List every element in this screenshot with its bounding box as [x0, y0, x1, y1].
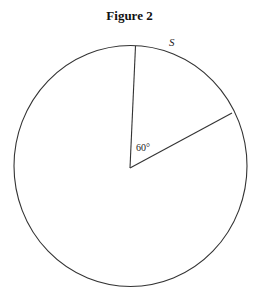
angle-label: 60°: [136, 142, 150, 153]
radius-top: [130, 46, 136, 168]
radius-right: [130, 113, 232, 168]
arc-label: S: [169, 36, 175, 48]
circle-diagram: S 60°: [0, 0, 259, 304]
